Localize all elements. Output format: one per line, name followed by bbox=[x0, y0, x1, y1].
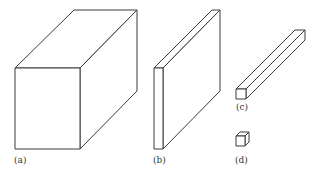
rod-c-side-face bbox=[246, 30, 305, 99]
label-b: (b) bbox=[153, 155, 166, 165]
rod-c-front-face bbox=[236, 89, 246, 99]
slab-b bbox=[154, 10, 220, 149]
slab-b-front-face bbox=[154, 68, 163, 149]
rod-c bbox=[236, 30, 305, 99]
block-a bbox=[15, 10, 137, 149]
shapes-diagram: (a) (b) (c) (d) bbox=[0, 0, 318, 174]
cube-d bbox=[236, 132, 249, 146]
label-d: (d) bbox=[235, 155, 248, 165]
label-c: (c) bbox=[236, 102, 248, 112]
label-a: (a) bbox=[14, 155, 26, 165]
cube-d-front-face bbox=[236, 136, 245, 146]
rod-c-top-face bbox=[236, 30, 305, 89]
block-a-front-face bbox=[15, 68, 80, 149]
